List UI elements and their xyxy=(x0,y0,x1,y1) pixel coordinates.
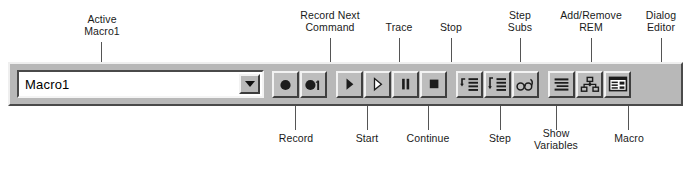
play-outline-triangle-icon xyxy=(369,75,386,93)
comment-lines-icon xyxy=(552,75,571,94)
active-macro-combobox[interactable]: Macro1 xyxy=(17,70,264,98)
leader-line-step-subs xyxy=(520,38,521,62)
leader-line-record-next-command xyxy=(330,38,331,62)
step-button[interactable] xyxy=(456,71,483,98)
leader-line-continue xyxy=(428,106,429,130)
leader-line-trace xyxy=(399,38,400,62)
leader-line-macro xyxy=(628,106,629,130)
leader-line-stop xyxy=(451,38,452,62)
leader-line-record xyxy=(295,106,296,130)
toolbar-callout-figure: Active Macro1 Record Next Command Trace … xyxy=(0,0,691,169)
leader-line-active-macro xyxy=(101,42,102,62)
leader-line-start xyxy=(367,106,368,130)
run-group xyxy=(336,71,447,98)
step-subs-button[interactable] xyxy=(484,71,511,98)
start-button[interactable] xyxy=(336,71,363,98)
play-triangle-icon xyxy=(341,75,358,93)
annotation-dialog-editor: Dialog Editor xyxy=(634,10,688,33)
stop-square-icon xyxy=(425,75,442,93)
trace-button[interactable] xyxy=(364,71,391,98)
dialog-box-icon xyxy=(608,75,628,93)
macro-button[interactable] xyxy=(576,71,603,98)
record-button[interactable] xyxy=(272,71,299,98)
annotation-show-variables: Show Variables xyxy=(524,128,588,151)
annotation-step: Step xyxy=(477,133,523,145)
annotation-active-macro: Active Macro1 xyxy=(62,14,142,37)
record-group xyxy=(272,71,327,98)
step-subs-lines-icon xyxy=(487,75,508,94)
annotation-record: Record xyxy=(268,133,324,145)
continue-button[interactable] xyxy=(392,71,419,98)
show-variables-button[interactable] xyxy=(512,71,539,98)
leader-line-dialog-editor xyxy=(661,38,662,62)
annotation-add-remove-rem: Add/Remove REM xyxy=(548,10,634,33)
edit-group xyxy=(548,71,631,98)
leader-line-step xyxy=(500,106,501,130)
dialog-editor-button[interactable] xyxy=(604,71,631,98)
annotation-trace: Trace xyxy=(372,22,426,34)
annotation-record-next-command: Record Next Command xyxy=(282,10,378,33)
record-one-icon xyxy=(303,75,324,94)
annotation-start: Start xyxy=(341,133,393,145)
record-next-command-button[interactable] xyxy=(300,71,327,98)
annotation-stop: Stop xyxy=(424,22,478,34)
stop-button[interactable] xyxy=(420,71,447,98)
glasses-icon xyxy=(515,75,537,94)
annotation-step-subs: Step Subs xyxy=(496,10,544,33)
annotation-macro: Macro xyxy=(602,133,656,145)
annotation-continue: Continue xyxy=(397,133,459,145)
step-into-lines-icon xyxy=(459,75,480,94)
leader-line-add-remove-rem xyxy=(591,38,592,62)
record-circle-icon xyxy=(276,75,295,94)
step-group xyxy=(456,71,539,98)
chevron-down-icon[interactable] xyxy=(239,74,260,94)
add-remove-rem-button[interactable] xyxy=(548,71,575,98)
macro-toolbar: Macro1 xyxy=(8,62,683,106)
org-chart-icon xyxy=(580,75,600,94)
pause-bars-icon xyxy=(397,75,414,93)
active-macro-value: Macro1 xyxy=(19,77,239,92)
